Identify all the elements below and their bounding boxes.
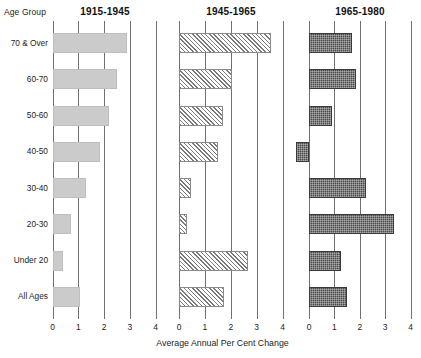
- panel-title: 1945-1965: [186, 6, 276, 17]
- axis-tick: [104, 315, 105, 319]
- x-tick-label: 2: [96, 322, 112, 332]
- axis-tick: [53, 315, 54, 319]
- bar: [309, 178, 366, 198]
- x-tick-label: 2: [352, 322, 368, 332]
- x-tick-label: 0: [171, 322, 187, 332]
- axis-tick: [334, 315, 335, 319]
- axis-tick: [360, 21, 361, 25]
- x-axis-caption: Average Annual Per Cent Change: [0, 338, 421, 348]
- axis-tick: [309, 315, 310, 319]
- bar: [309, 251, 341, 271]
- axis-tick: [334, 21, 335, 25]
- axis-tick: [156, 315, 157, 319]
- axis-tick: [385, 21, 386, 25]
- axis-tick: [257, 315, 258, 319]
- axis-tick: [360, 315, 361, 319]
- panel-title: 1915-1945: [60, 6, 150, 17]
- x-tick-label: 3: [377, 322, 393, 332]
- x-tick-label: 3: [249, 322, 265, 332]
- panel-title: 1965-1980: [315, 6, 405, 17]
- x-tick-label: 1: [326, 322, 342, 332]
- axis-tick: [179, 315, 180, 319]
- grouped-bar-chart: Age Group 1915-19451945-19651965-1980 70…: [0, 0, 421, 358]
- x-tick-label: 4: [275, 322, 291, 332]
- axis-tick: [205, 315, 206, 319]
- bar: [309, 106, 332, 126]
- axis-tick: [130, 315, 131, 319]
- axis-tick: [309, 21, 310, 25]
- x-tick-label: 0: [301, 322, 317, 332]
- bar: [309, 214, 394, 234]
- x-tick-label: 1: [197, 322, 213, 332]
- x-tick-label: 3: [122, 322, 138, 332]
- axis-tick: [411, 315, 412, 319]
- gridline: [360, 25, 361, 315]
- axis-tick: [385, 315, 386, 319]
- bar: [309, 69, 356, 89]
- bar: [296, 142, 309, 162]
- age-group-axis-header: Age Group: [4, 7, 46, 17]
- chart-panel: 01234: [0, 25, 421, 315]
- x-tick-label: 1: [70, 322, 86, 332]
- x-tick-label: 0: [45, 322, 61, 332]
- bar: [309, 287, 347, 307]
- x-axis-caption-text: Average Annual Per Cent Change: [156, 338, 288, 348]
- axis-tick: [283, 315, 284, 319]
- gridline: [385, 25, 386, 315]
- gridline: [411, 25, 412, 315]
- axis-tick: [78, 315, 79, 319]
- x-tick-label: 2: [223, 322, 239, 332]
- x-tick-label: 4: [148, 322, 164, 332]
- bar: [309, 33, 352, 53]
- axis-tick: [231, 315, 232, 319]
- x-tick-label: 4: [403, 322, 419, 332]
- axis-tick: [411, 21, 412, 25]
